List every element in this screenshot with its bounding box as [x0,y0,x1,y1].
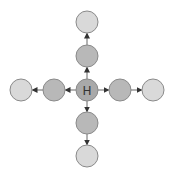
hierarchy-diagram: H [0,0,174,179]
node-left-outer [10,79,32,101]
node-up-inner [76,45,98,67]
node-left-inner [43,79,65,101]
node-right-outer [142,79,164,101]
node-up-outer [76,11,98,33]
node-down-inner [76,112,98,134]
node-right-inner [109,79,131,101]
center-node-label: H [82,84,91,98]
node-down-outer [76,145,98,167]
